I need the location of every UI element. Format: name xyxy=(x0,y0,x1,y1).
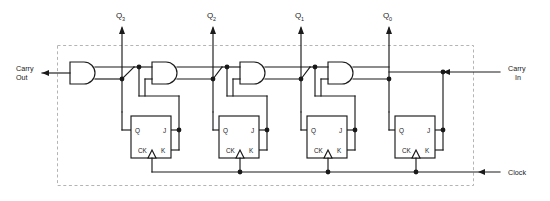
q0-sub: 0 xyxy=(389,16,392,22)
circuit-diagram: Q J CK K xyxy=(0,0,550,201)
label-q3: Q 3 xyxy=(116,11,125,22)
carry-out-line1: Carry xyxy=(16,64,34,73)
ff1-pin-q: Q xyxy=(311,127,316,135)
flipflop-ff2: Q J CK K xyxy=(219,116,259,158)
ff1-pin-ck: CK xyxy=(314,147,324,154)
carry-in-net xyxy=(443,69,500,75)
clock-bus xyxy=(152,158,500,175)
ff0-pin-k: K xyxy=(425,147,430,154)
ff3-pin-k: K xyxy=(161,147,166,154)
ff0-pin-q: Q xyxy=(399,127,404,135)
and-gate-and2 xyxy=(152,62,177,84)
label-q1: Q 1 xyxy=(295,11,304,22)
ff3-pin-q: Q xyxy=(135,127,140,135)
carry-out-net xyxy=(42,70,70,76)
ff2-pin-ck: CK xyxy=(226,147,236,154)
ff1-pin-j: J xyxy=(339,127,342,134)
and-gate-and0 xyxy=(328,62,353,84)
ff2-pin-j: J xyxy=(251,127,254,134)
and-gate-and1 xyxy=(240,62,265,84)
flipflop-ff0: Q J CK K xyxy=(395,116,435,158)
circuit-svg: Q J CK K xyxy=(0,0,550,201)
ff0-pin-j: J xyxy=(427,127,430,134)
carry-out-line2: Out xyxy=(16,73,28,82)
flipflop-ff3: Q J CK K xyxy=(131,116,171,158)
label-clock: Clock xyxy=(508,168,526,177)
carry-in-line2: In xyxy=(515,73,521,82)
ff3-pin-j: J xyxy=(163,127,166,134)
ff3-pin-ck: CK xyxy=(138,147,148,154)
q3-sub: 3 xyxy=(122,16,125,22)
label-q2: Q 2 xyxy=(207,11,216,22)
q2-sub: 2 xyxy=(213,16,216,22)
ff2-pin-k: K xyxy=(249,147,254,154)
label-q0: Q 0 xyxy=(383,11,392,22)
flipflop-ff1: Q J CK K xyxy=(307,116,347,158)
ff1-pin-k: K xyxy=(337,147,342,154)
label-carry-in: Carry In xyxy=(508,64,526,82)
q1-sub: 1 xyxy=(301,16,304,22)
ff2-pin-q: Q xyxy=(223,127,228,135)
label-carry-out: Carry Out xyxy=(16,64,34,82)
ff0-pin-ck: CK xyxy=(402,147,412,154)
and-gate-and3 xyxy=(70,62,95,84)
carry-in-line1: Carry xyxy=(508,64,526,73)
